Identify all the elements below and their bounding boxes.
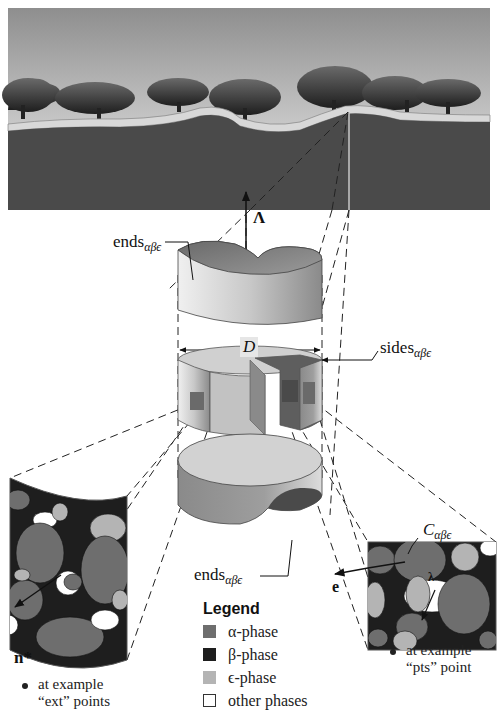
n-star-label: n* <box>14 648 32 668</box>
epsilon-swatch <box>203 671 216 684</box>
ext-microstructure-patch <box>0 478 129 668</box>
d-label: D <box>240 337 258 357</box>
bullet-icon <box>22 683 28 689</box>
lambda-lower-label: λ <box>428 570 434 585</box>
legend: Legend α-phase β-phase ϵ-phase other pha… <box>203 600 363 712</box>
ext-points-note: at example “ext” points <box>22 676 110 710</box>
legend-item-beta: β-phase <box>203 643 363 666</box>
lambda-upper-label: Λ <box>253 208 265 228</box>
legend-item-alpha: α-phase <box>203 620 363 643</box>
bottom-cylinder-piece <box>178 434 322 524</box>
top-cylinder-piece <box>178 241 322 324</box>
alpha-swatch <box>203 625 216 638</box>
ends-bottom-label: endsαβϵ <box>194 565 242 588</box>
middle-cylinder-piece <box>178 346 322 436</box>
bullet-icon <box>390 649 396 655</box>
beta-swatch <box>203 648 216 661</box>
legend-item-epsilon: ϵ-phase <box>203 666 363 689</box>
other-swatch <box>203 694 216 707</box>
sides-label: sidesαβϵ <box>380 338 431 361</box>
ends-top-label: endsαβϵ <box>113 232 161 255</box>
legend-item-other: other phases <box>203 689 363 712</box>
c-label: Cαβϵ <box>423 520 451 543</box>
legend-title: Legend <box>203 600 363 618</box>
landscape-scene <box>2 8 490 210</box>
pts-point-note: at example “pts” point <box>390 642 471 676</box>
e-label: e <box>332 578 339 596</box>
